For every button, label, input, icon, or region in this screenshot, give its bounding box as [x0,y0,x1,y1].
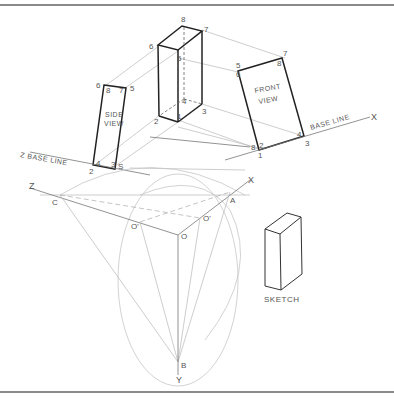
sketch-label: SKETCH [264,295,299,304]
svg-text:VIEW: VIEW [104,120,124,127]
construction-geometry [30,168,250,387]
side-view-rect [93,85,126,169]
svg-text:3: 3 [305,139,310,148]
svg-text:B: B [181,361,186,370]
svg-text:O': O' [203,214,211,223]
svg-text:A: A [230,196,236,205]
front-view-rect [238,58,304,150]
isometric-box [158,26,202,122]
svg-text:7: 7 [283,49,288,58]
svg-text:X: X [371,112,377,122]
svg-text:6: 6 [236,70,241,79]
svg-text:7: 7 [119,86,124,95]
axonometric-projection-diagram: 8 7 6 5 4 3 2 1 SIDE VIEW 6 8 7 5 4 2 3 … [0,0,394,401]
svg-text:3: 3 [202,107,207,116]
svg-text:4: 4 [182,97,187,106]
side-view-label: SIDE [105,111,123,118]
svg-text:6: 6 [96,81,101,90]
svg-text:O': O' [131,222,139,231]
svg-text:Z BASE LINE: Z BASE LINE [20,151,68,166]
front-view-label: FRONT [254,82,282,94]
svg-text:5: 5 [177,54,182,63]
sketch-box [265,213,302,290]
svg-text:Y: Y [176,375,182,385]
svg-text:5: 5 [236,61,241,70]
svg-text:X: X [248,175,254,185]
svg-text:BASE LINE: BASE LINE [309,113,350,131]
svg-text:2: 2 [89,167,94,176]
svg-text:Z: Z [29,181,35,191]
svg-text:O: O [181,232,187,241]
svg-text:1: 1 [177,112,182,121]
svg-text:1: 1 [258,151,263,160]
svg-text:5: 5 [130,84,135,93]
svg-text:8: 8 [277,59,282,68]
svg-text:7: 7 [204,25,209,34]
svg-text:C: C [52,198,58,207]
svg-text:4: 4 [96,159,101,168]
svg-text:VIEW: VIEW [258,95,279,105]
svg-text:8: 8 [181,15,186,24]
svg-text:8: 8 [106,86,111,95]
base-line-right [225,117,370,160]
svg-text:2: 2 [154,117,159,126]
svg-text:6: 6 [149,42,154,51]
